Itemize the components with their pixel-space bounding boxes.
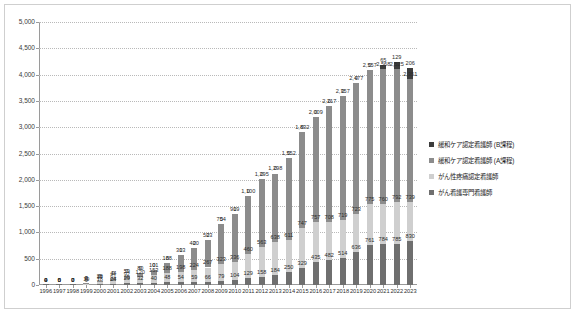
bar-segment[interactable] (259, 179, 265, 247)
bar-value-label: 0 (314, 110, 317, 116)
bar-value-label: 104 (230, 273, 239, 279)
bar-segment[interactable] (313, 262, 319, 285)
legend-swatch (429, 174, 434, 179)
bar-value-label: 0 (206, 233, 209, 239)
bar-segment[interactable] (299, 132, 305, 228)
bar-segment[interactable] (353, 252, 359, 285)
bar-value-label: 2,525 (390, 62, 404, 68)
bar-group[interactable] (394, 62, 400, 285)
bar-segment[interactable] (313, 117, 319, 223)
legend-item[interactable]: 緩和ケア認定看護師 (A課程) (429, 157, 569, 164)
bar-segment[interactable] (178, 282, 184, 285)
bar-segment[interactable] (124, 283, 130, 285)
y-tick-mark (36, 101, 39, 102)
x-axis-label: 2013 (269, 289, 282, 295)
bar-segment[interactable] (245, 278, 251, 285)
x-axis-label: 2001 (107, 289, 120, 295)
bar-segment[interactable] (137, 283, 143, 285)
bar-segment[interactable] (43, 284, 49, 285)
bar-segment[interactable] (353, 83, 359, 213)
legend-swatch (429, 190, 434, 195)
bar-segment[interactable] (272, 174, 278, 242)
bar-group[interactable] (83, 283, 89, 285)
legend-item[interactable]: がん性疼痛認定看護師 (429, 173, 569, 180)
x-axis-label: 2000 (93, 289, 106, 295)
bar-group[interactable] (380, 65, 386, 285)
plot-inner: 05001,0001,5002,0002,5003,0003,5004,0004… (39, 22, 417, 285)
bar-value-label: 0 (301, 125, 304, 131)
bar-value-label: 0 (44, 278, 47, 284)
x-axis-label: 2003 (134, 289, 147, 295)
bar-value-label: 0 (341, 89, 344, 95)
y-tick-mark (36, 180, 39, 181)
y-tick-label: 3,000 (19, 124, 35, 131)
bar-value-label: 784 (379, 237, 388, 243)
bar-segment[interactable] (407, 79, 413, 203)
legend-label: 緩和ケア認定看護師 (B課程) (438, 141, 514, 148)
bar-segment[interactable] (110, 284, 116, 285)
bar-segment[interactable] (299, 268, 305, 285)
bar-group[interactable] (407, 68, 413, 285)
bar-segment[interactable] (394, 244, 400, 285)
bar-segment[interactable] (407, 241, 413, 285)
plot-area: 05001,0001,5002,0002,5003,0003,5004,0004… (39, 22, 417, 285)
bar-segment[interactable] (164, 282, 170, 285)
bar-segment[interactable] (151, 283, 157, 285)
bar-segment[interactable] (394, 69, 400, 202)
bar-segment[interactable] (380, 244, 386, 285)
y-tick-mark (36, 127, 39, 128)
bar-value-label: 267 (203, 260, 212, 266)
legend-label: がん性疼痛認定看護師 (438, 173, 498, 180)
x-axis-label: 2002 (120, 289, 133, 295)
bar-group[interactable] (353, 83, 359, 285)
bar-group[interactable] (367, 70, 373, 285)
bar-segment[interactable] (272, 275, 278, 285)
bar-segment[interactable] (286, 272, 292, 285)
bar-value-label: 0 (260, 172, 263, 178)
bar-segment[interactable] (191, 282, 197, 285)
y-tick-label: 2,000 (19, 177, 35, 184)
bar-value-label: 250 (284, 265, 293, 271)
bar-value-label: 0 (112, 271, 115, 277)
y-tick-mark (36, 75, 39, 76)
bar-value-label: 158 (257, 270, 266, 276)
legend-swatch (429, 142, 434, 147)
y-tick-mark (36, 48, 39, 49)
bar-segment[interactable] (205, 282, 211, 285)
bar-segment[interactable] (286, 158, 292, 240)
bar-segment[interactable] (326, 106, 332, 223)
y-tick-mark (36, 154, 39, 155)
bar-value-label: 757 (311, 215, 320, 221)
bar-segment[interactable] (326, 260, 332, 285)
bar-segment[interactable] (232, 280, 238, 285)
legend-item[interactable]: 緩和ケア認定看護師 (B課程) (429, 141, 569, 148)
bar-segment[interactable] (380, 69, 386, 204)
bar-segment[interactable] (56, 284, 62, 285)
bar-segment[interactable] (367, 245, 373, 285)
bar-segment[interactable] (218, 281, 224, 285)
bar-segment[interactable] (340, 96, 346, 220)
bar-segment[interactable] (97, 284, 103, 285)
bar-segment[interactable] (259, 277, 265, 285)
bar-segment[interactable] (70, 284, 76, 285)
x-axis-label: 2004 (147, 289, 160, 295)
legend-item[interactable]: がん看護専門看護師 (429, 189, 569, 196)
x-axis-label: 2010 (228, 289, 241, 295)
bar-value-label: 329 (298, 261, 307, 267)
bar-value-label: 48 (164, 275, 170, 281)
gridline (39, 22, 417, 23)
bar-value-label: 0 (85, 276, 88, 282)
bar-segment[interactable] (367, 70, 373, 204)
bar-group[interactable] (340, 96, 346, 285)
bar-segment[interactable] (340, 258, 346, 285)
bar-value-label: 761 (365, 238, 374, 244)
gridline (39, 127, 417, 128)
bar-value-label: 775 (365, 197, 374, 203)
y-tick-mark (36, 259, 39, 260)
x-axis-label: 1999 (80, 289, 93, 295)
bar-segment[interactable] (83, 284, 89, 285)
bar-value-label: 708 (325, 215, 334, 221)
bar-value-label: 0 (58, 278, 61, 284)
bar-value-label: 611 (284, 233, 293, 239)
y-tick-label: 1,500 (19, 203, 35, 210)
